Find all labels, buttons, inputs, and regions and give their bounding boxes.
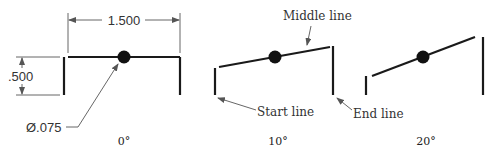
height-label: .500	[8, 69, 33, 84]
angle-label-0: 0°	[118, 135, 131, 148]
angle-label-10: 10°	[268, 135, 288, 148]
panel-20-degrees: 20°	[366, 37, 483, 148]
angle-label-20: 20°	[416, 135, 436, 148]
end-line-callout: End line	[337, 98, 404, 121]
dot-diameter-label: Ø.075	[26, 120, 61, 135]
pivot-dot	[269, 51, 282, 64]
pivot-dot	[417, 51, 430, 64]
diagram-canvas: 1.500 .500 Ø.075 0° Middle line	[0, 0, 492, 158]
end-line-label: End line	[353, 107, 404, 121]
height-dimension: .500	[8, 57, 60, 95]
pivot-dot	[118, 51, 131, 64]
length-dimension: 1.500	[68, 13, 180, 53]
panel-10-degrees: Middle line Start line End line 10°	[215, 9, 404, 148]
middle-line-callout: Middle line	[283, 9, 352, 45]
start-line-callout: Start line	[218, 98, 314, 119]
start-line-label: Start line	[257, 105, 314, 119]
dot-diameter-callout: Ø.075	[26, 64, 118, 135]
length-label: 1.500	[108, 13, 141, 28]
panel-0-degrees: 1.500 .500 Ø.075 0°	[8, 13, 180, 148]
middle-line-label: Middle line	[283, 9, 352, 23]
